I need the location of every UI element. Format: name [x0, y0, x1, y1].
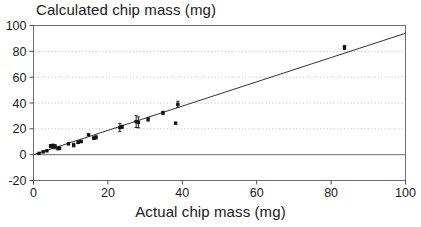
x-tick-label-60: 60	[250, 186, 264, 200]
y-tick-label-40: 40	[13, 97, 27, 111]
data-point	[67, 142, 70, 145]
x-tick-label-0: 0	[30, 186, 37, 200]
data-point	[146, 118, 149, 121]
chart-figure: Calculated chip mass (mg) -2002040608010…	[0, 0, 421, 227]
x-tick-label-80: 80	[324, 186, 338, 200]
data-point	[41, 150, 44, 153]
data-point	[120, 125, 123, 128]
data-point	[176, 103, 179, 106]
data-point	[94, 136, 97, 139]
scatter-plot: -20020406080100020406080100	[0, 0, 421, 227]
y-tick-label-20: 20	[13, 122, 27, 136]
x-axis-label: Actual chip mass (mg)	[0, 203, 421, 220]
y-tick-label-100: 100	[6, 19, 27, 33]
data-point	[45, 149, 48, 152]
y-tick-label-0: 0	[20, 148, 27, 162]
data-point	[37, 152, 40, 155]
x-tick-label-100: 100	[395, 186, 416, 200]
data-point	[161, 111, 164, 114]
data-point	[87, 133, 90, 136]
data-point	[174, 121, 177, 124]
data-point	[79, 140, 82, 143]
x-tick-label-20: 20	[101, 186, 115, 200]
data-point	[343, 46, 346, 49]
y-tick-label--20: -20	[8, 174, 26, 188]
data-point	[137, 121, 140, 124]
data-point	[58, 147, 61, 150]
y-tick-label-60: 60	[13, 71, 27, 85]
data-point	[53, 145, 56, 148]
x-tick-label-40: 40	[175, 186, 189, 200]
data-point	[76, 141, 79, 144]
y-tick-label-80: 80	[13, 45, 27, 59]
data-point	[72, 143, 75, 146]
